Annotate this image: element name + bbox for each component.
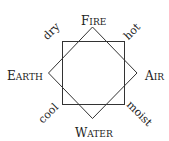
label-water: WATER bbox=[75, 124, 113, 140]
label-air: AIR bbox=[145, 67, 164, 83]
earth-rest: ARTH bbox=[16, 72, 43, 82]
water-initial: W bbox=[75, 126, 87, 140]
four-elements-diagram: FIRE EARTH AIR WATER dry hot cool moist bbox=[0, 0, 169, 141]
water-rest: ATER bbox=[87, 129, 112, 139]
fire-rest: IRE bbox=[89, 17, 106, 27]
label-fire: FIRE bbox=[81, 12, 106, 28]
label-earth: EARTH bbox=[7, 67, 43, 83]
earth-initial: E bbox=[7, 69, 16, 83]
air-initial: A bbox=[145, 69, 154, 83]
air-rest: IR bbox=[154, 72, 164, 82]
